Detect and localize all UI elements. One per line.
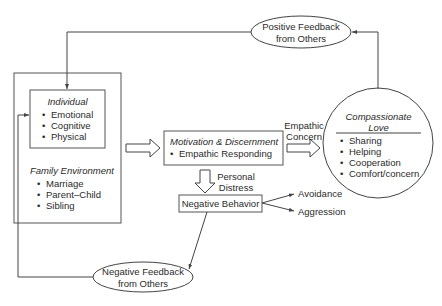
empathic-concern-line1: Empathic <box>284 120 324 131</box>
arrow-to-aggression <box>262 203 294 211</box>
positive-feedback-line1: Positive Feedback <box>251 21 351 32</box>
individual-item: Physical <box>42 131 93 142</box>
family-item: Parent–Child <box>37 189 101 200</box>
love-item: Helping <box>340 146 419 157</box>
positive-feedback-line2: from Others <box>251 33 351 44</box>
love-item: Cooperation <box>340 157 419 168</box>
individual-list: Emotional Cognitive Physical <box>42 109 93 142</box>
empathic-concern-line2: Concern <box>284 131 324 142</box>
family-item: Marriage <box>37 178 101 189</box>
individual-item: Cognitive <box>42 120 93 131</box>
negative-behavior-label: Negative Behavior <box>179 198 262 209</box>
love-item: Comfort/concern <box>340 168 419 179</box>
personal-distress-line2: Distress <box>216 182 256 193</box>
hollow-arrow-to-motivation <box>126 139 160 157</box>
love-to-positive-connector <box>352 32 378 89</box>
compassionate-love-title-line2: Love <box>336 122 421 133</box>
individual-item: Emotional <box>42 109 93 120</box>
compassionate-love-list: Sharing Helping Cooperation Comfort/conc… <box>340 135 419 179</box>
family-environment-title: Family Environment <box>30 165 114 176</box>
outcome-avoidance: Avoidance <box>298 188 342 199</box>
motivation-list: Empathic Responding <box>170 148 272 159</box>
compassionate-love-title-line1: Compassionate <box>336 111 421 122</box>
behavior-to-negative-feedback-connector <box>189 212 207 269</box>
motivation-item: Empathic Responding <box>170 148 272 159</box>
motivation-title: Motivation & Discernment <box>170 136 278 147</box>
hollow-arrow-personal-distress <box>195 170 215 193</box>
negative-feedback-line2: from Others <box>93 278 193 289</box>
family-item: Sibling <box>37 200 101 211</box>
personal-distress-line1: Personal <box>216 171 256 182</box>
outcome-aggression: Aggression <box>298 206 346 217</box>
arrow-to-avoidance <box>262 194 294 203</box>
negative-feedback-line1: Negative Feedback <box>93 266 193 277</box>
positive-feedback-connector <box>67 32 251 89</box>
individual-title: Individual <box>30 96 105 107</box>
love-item: Sharing <box>340 135 419 146</box>
family-environment-list: Marriage Parent–Child Sibling <box>37 178 101 211</box>
